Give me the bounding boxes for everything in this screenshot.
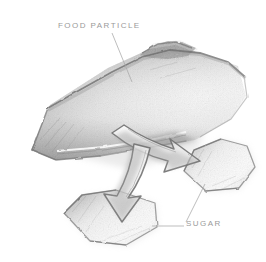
- sketch-canvas: FOOD PARTICLE SUGAR: [0, 0, 266, 262]
- label-sugar: SUGAR: [186, 220, 222, 228]
- label-food-particle: FOOD PARTICLE: [58, 22, 141, 30]
- pencil-sketch-illustration: [0, 0, 266, 262]
